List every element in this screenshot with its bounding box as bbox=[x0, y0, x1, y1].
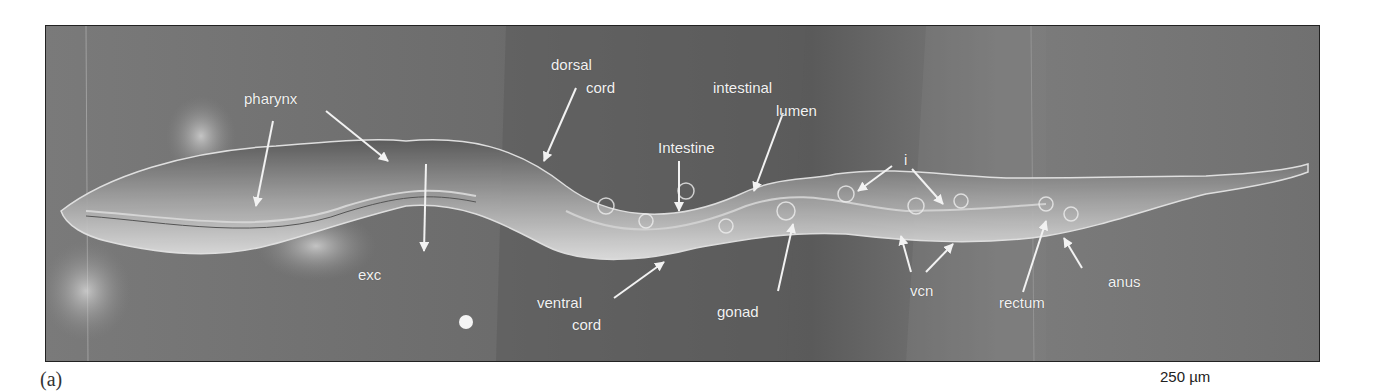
label-ventral: ventral bbox=[537, 294, 582, 311]
label-pharynx: pharynx bbox=[244, 90, 297, 107]
label-rectum: rectum bbox=[999, 294, 1045, 311]
panel-label: (a) bbox=[40, 368, 62, 391]
worm-illustration bbox=[46, 26, 1320, 362]
label-intestinal: intestinal bbox=[713, 79, 772, 96]
label-exc: exc bbox=[358, 266, 381, 283]
label-i: i bbox=[904, 151, 907, 168]
label-gonad: gonad bbox=[717, 303, 759, 320]
label-ventral-cord: cord bbox=[572, 316, 601, 333]
label-dorsal: dorsal bbox=[551, 56, 592, 73]
micrograph-image: pharynx exc dorsal cord ventral cord Int… bbox=[45, 25, 1320, 362]
label-anus: anus bbox=[1108, 273, 1141, 290]
label-vcn: vcn bbox=[910, 282, 933, 299]
scale-bar-label: 250 µm bbox=[1160, 368, 1210, 385]
label-dorsal-cord: cord bbox=[586, 79, 615, 96]
label-lumen: lumen bbox=[776, 102, 817, 119]
label-intestine: Intestine bbox=[658, 139, 715, 156]
